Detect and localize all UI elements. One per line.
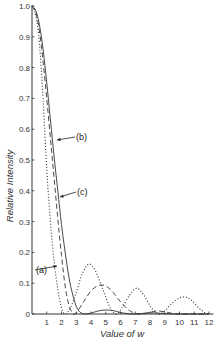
x-tick-label: 11: [190, 318, 199, 327]
y-tick-label: 0.9: [19, 33, 31, 42]
chart-series: [32, 6, 209, 314]
x-tick-label: 1: [45, 318, 50, 327]
y-axis-title: Relative Intensity: [4, 149, 15, 223]
y-tick-label: 0.3: [19, 218, 31, 227]
x-tick-label: 5: [104, 318, 109, 327]
x-tick-label: 6: [118, 318, 123, 327]
y-tick-label: 0.8: [19, 64, 31, 73]
x-tick-label: 9: [163, 318, 168, 327]
series-solid-curve: [32, 6, 209, 314]
y-tick-label: 0.5: [19, 156, 31, 165]
annotation-label: (a): [36, 265, 47, 275]
y-tick-label: 1.0: [19, 2, 31, 11]
annotation-label: (b): [76, 132, 87, 142]
x-tick-label: 10: [175, 318, 184, 327]
y-tick-label: 0: [26, 310, 31, 319]
x-tick-label: 4: [89, 318, 94, 327]
x-tick-label: 12: [205, 318, 214, 327]
arrowhead-icon: [60, 194, 64, 197]
arrowhead-icon: [57, 138, 61, 141]
annotation-label: (c): [77, 187, 88, 197]
y-tick-label: 0.1: [19, 279, 31, 288]
y-tick-label: 0.6: [19, 125, 31, 134]
y-tick-label: 0.7: [19, 94, 31, 103]
x-tick-label: 8: [148, 318, 153, 327]
y-tick-label: 0.2: [19, 248, 31, 257]
y-tick-label: 0.4: [19, 187, 31, 196]
chart-axes: [32, 5, 213, 314]
intensity-chart: 00.10.20.30.40.50.60.70.80.91.0 12345678…: [0, 0, 223, 343]
x-tick-label: 3: [74, 318, 79, 327]
x-axis-title: Value of w: [100, 328, 145, 339]
series-dotted-curve: [32, 6, 209, 314]
x-tick-label: 2: [59, 318, 64, 327]
series-dashed-curve: [32, 6, 209, 314]
x-tick-label: 7: [133, 318, 138, 327]
arrowhead-icon: [53, 265, 57, 268]
